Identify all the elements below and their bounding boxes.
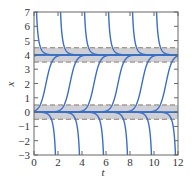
y-tick-label: −2 [18,135,30,147]
y-tick-label: 0 [25,106,31,118]
y-tick-label: 4 [25,49,31,61]
upper-decay-curve [132,1,190,55]
x-tick-label: 8 [127,156,133,168]
y-axis-label: x [4,81,16,87]
solution-curves [22,1,190,167]
y-tick-label: −1 [18,120,30,132]
y-tick-label: 7 [25,6,31,18]
s-curve [22,55,190,112]
upper-decay-curve [156,1,190,55]
upper-decay-curve [36,1,190,55]
y-tick-label: 2 [25,78,31,90]
s-curve [22,55,190,112]
y-tick-label: 6 [25,20,31,32]
s-curve [22,55,190,112]
y-tick-label: 1 [25,92,31,104]
y-tick-label: 3 [25,63,31,75]
s-curve [22,55,190,112]
y-tick-label: 5 [25,35,31,47]
upper-decay-curve [60,1,190,55]
lower-blowup-curve [22,112,128,166]
x-axis-ticks: 024681012 [31,12,183,168]
x-tick-label: 12 [173,156,184,168]
plot-frame [34,12,178,155]
s-curve [22,55,190,112]
x-tick-label: 10 [149,156,161,168]
y-tick-label: −3 [18,149,30,161]
x-tick-label: 2 [55,156,61,168]
y-axis-ticks: −3−2−101234567 [18,6,178,161]
upper-decay-curve [84,1,190,55]
x-tick-label: 0 [31,156,37,168]
s-curve [22,55,190,112]
equilibrium-bands [34,48,178,120]
direction-field-chart: 024681012 −3−2−101234567 t x [0,0,195,179]
x-tick-label: 4 [79,156,85,168]
